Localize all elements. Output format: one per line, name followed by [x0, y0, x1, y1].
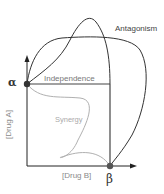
alpha-label: α	[8, 76, 16, 89]
synergy-label: Synergy	[55, 115, 83, 124]
synergy-curve	[27, 84, 110, 166]
alpha-point	[24, 81, 30, 87]
beta-label: β	[106, 172, 113, 186]
x-axis-label: [Drug B]	[62, 171, 91, 180]
independence-label: Independence	[44, 74, 95, 83]
antagonism-label: Antagonism	[115, 24, 157, 33]
antagonism-curve-outer	[27, 37, 146, 166]
y-axis-label: [Drug A]	[4, 110, 13, 139]
y-axis-arrow	[25, 55, 30, 62]
beta-point	[107, 163, 113, 169]
x-axis-arrow	[130, 164, 137, 169]
